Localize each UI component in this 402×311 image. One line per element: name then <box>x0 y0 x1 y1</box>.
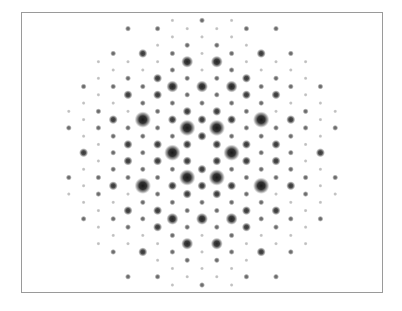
diffraction-spot <box>318 101 322 105</box>
diffraction-spot <box>258 216 264 222</box>
diffraction-spot <box>303 108 309 114</box>
diffraction-spot <box>271 156 280 165</box>
diffraction-spot <box>316 148 325 157</box>
diffraction-spot <box>170 283 174 287</box>
diffraction-spot <box>304 242 308 246</box>
diffraction-spot <box>111 233 115 237</box>
diffraction-spot <box>274 242 278 246</box>
diffraction-spot <box>333 109 337 113</box>
diffraction-spot <box>96 93 100 97</box>
diffraction-spot <box>304 159 308 163</box>
diffraction-spot <box>258 133 264 139</box>
diffraction-spot <box>184 92 190 98</box>
diffraction-spot <box>303 191 309 197</box>
diffraction-spot <box>123 140 132 149</box>
diffraction-spot <box>332 125 338 131</box>
diffraction-spot <box>286 181 295 190</box>
diffraction-spot <box>138 49 147 58</box>
diffraction-spot <box>185 275 189 279</box>
diffraction-spot <box>82 200 86 204</box>
diffraction-spot <box>181 56 193 68</box>
diffraction-spot <box>214 224 220 230</box>
diffraction-spot <box>95 108 101 114</box>
diffraction-spot <box>125 26 131 32</box>
diffraction-spot <box>66 174 72 180</box>
diffraction-spot <box>273 75 279 81</box>
diffraction-spot <box>242 90 251 99</box>
diffraction-spot <box>81 216 87 222</box>
diffraction-spot <box>170 35 174 39</box>
diffraction-spot <box>258 100 264 106</box>
diffraction-spot <box>110 249 116 255</box>
diffraction-spot <box>215 27 219 31</box>
diffraction-spot <box>318 118 322 122</box>
diffraction-spot <box>179 169 196 186</box>
diffraction-spot <box>184 208 190 214</box>
diffraction-spot <box>126 109 130 113</box>
diffraction-spot <box>96 225 100 229</box>
diffraction-spot <box>138 247 147 256</box>
diffraction-spot <box>166 80 178 92</box>
diffraction-spot <box>169 50 175 56</box>
diffraction-spot <box>82 184 86 188</box>
diffraction-spot <box>156 60 160 64</box>
diffraction-spot <box>215 275 219 279</box>
diffraction-spot <box>230 266 234 270</box>
diffraction-spot <box>273 26 279 32</box>
diffraction-spot <box>243 191 249 197</box>
diffraction-spot <box>288 166 294 172</box>
diffraction-spot <box>96 242 100 246</box>
diffraction-spot <box>226 213 238 225</box>
diffraction-spot <box>317 216 323 222</box>
diffraction-spot <box>229 249 235 255</box>
diffraction-spot <box>123 206 132 215</box>
diffraction-spot <box>212 107 221 116</box>
diffraction-spot <box>183 107 192 116</box>
diffraction-spot <box>168 181 177 190</box>
diffraction-spot <box>170 266 174 270</box>
diffraction-spot <box>257 247 266 256</box>
diffraction-spot <box>200 51 204 55</box>
diffraction-spot <box>170 18 174 22</box>
diffraction-spot <box>289 68 293 72</box>
diffraction-spot <box>96 159 100 163</box>
diffraction-spot <box>288 133 294 139</box>
diffraction-spot <box>153 222 162 231</box>
diffraction-spot <box>211 56 223 68</box>
diffraction-spot <box>179 120 196 137</box>
diffraction-spot <box>125 125 131 131</box>
diffraction-spot <box>214 75 220 81</box>
diffraction-spot <box>111 200 115 204</box>
diffraction-spot <box>229 67 235 73</box>
diffraction-spot <box>197 132 206 141</box>
diffraction-spot <box>242 156 251 165</box>
diffraction-spot <box>196 213 208 225</box>
diffraction-spot <box>126 192 130 196</box>
diffraction-spot <box>304 93 308 97</box>
diffraction-spot <box>153 156 162 165</box>
diffraction-spot <box>244 43 248 47</box>
diffraction-spot <box>140 84 146 90</box>
diffraction-spot <box>95 174 101 180</box>
diffraction-spot <box>111 68 115 72</box>
diffraction-spot <box>134 111 151 128</box>
diffraction-spot <box>214 92 220 98</box>
diffraction-spot <box>288 84 294 90</box>
diffraction-spot <box>333 192 337 196</box>
diffraction-spot <box>226 80 238 92</box>
diffraction-spot <box>164 144 181 161</box>
diffraction-spot <box>109 115 118 124</box>
diffraction-spot <box>197 165 206 174</box>
diffraction-spot <box>259 68 263 72</box>
diffraction-spot <box>304 142 308 146</box>
diffraction-spot <box>155 174 161 180</box>
diffraction-spot <box>141 233 145 237</box>
diffraction-spot <box>243 108 249 114</box>
diffraction-spot <box>258 84 264 90</box>
diffraction-spot <box>211 238 223 250</box>
diffraction-spot <box>125 174 131 180</box>
diffraction-spot <box>183 140 192 149</box>
diffraction-spot <box>184 224 190 230</box>
diffraction-spot <box>140 100 146 106</box>
diffraction-spot <box>273 174 279 180</box>
